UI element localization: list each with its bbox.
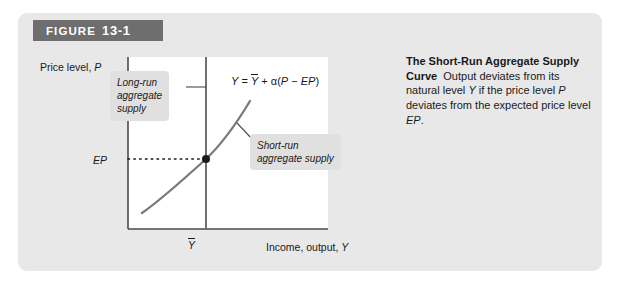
equation-close-paren: ) — [315, 75, 319, 87]
x-axis-label: Income, output, Y — [266, 241, 348, 253]
supply-curve-equation: Y = Y + α(P − EP) — [231, 75, 319, 87]
x-axis-label-symbol: Y — [341, 241, 348, 253]
caption-symbol-p: P — [558, 84, 565, 96]
y-axis-tick-ep: EP — [93, 154, 107, 166]
caption-symbol-y: Y — [468, 84, 475, 96]
equation-ep: EP — [301, 75, 316, 87]
figure-panel: FIGURE 13-1 Price level, P — [18, 13, 602, 271]
callout-sras-line1: Short-run — [257, 139, 334, 152]
callout-lras-line1: Long-run — [117, 76, 162, 89]
chart-plot-region: Price level, P Income, output, Y EP Y Lo… — [38, 49, 383, 261]
callout-lras-line3: supply — [117, 102, 162, 115]
caption-body-d: . — [421, 114, 424, 126]
figure-label-word: FIGURE — [46, 25, 96, 37]
caption-symbol-ep: EP — [406, 114, 421, 126]
callout-sras-line2: aggregate supply — [257, 152, 334, 165]
equation-alpha-open: + α( — [258, 75, 281, 87]
equation-minus: − — [288, 75, 301, 87]
x-axis-label-text: Income, output, — [266, 241, 341, 253]
callout-short-run-aggregate-supply: Short-run aggregate supply — [250, 134, 341, 170]
callout-lras-line2: aggregate — [117, 89, 162, 102]
callout-long-run-aggregate-supply: Long-run aggregate supply — [110, 71, 169, 121]
y-axis-label-symbol: P — [94, 61, 101, 73]
equation-y-bar: Y — [251, 75, 258, 87]
caption-body-c: deviates from the expected price level — [406, 99, 591, 111]
y-bar-symbol: Y — [188, 239, 195, 251]
figure-number: 13-1 — [102, 23, 130, 38]
equilibrium-point-marker — [202, 155, 210, 163]
y-axis-label: Price level, P — [40, 61, 101, 73]
y-axis-label-text: Price level, — [40, 61, 94, 73]
figure-caption: The Short-Run Aggregate Supply Curve Out… — [406, 54, 592, 127]
equation-equals: = — [238, 75, 251, 87]
caption-body-b: if the price level — [476, 84, 559, 96]
figure-header-bar: FIGURE 13-1 — [33, 20, 163, 41]
x-axis-tick-natural-output: Y — [188, 239, 195, 251]
